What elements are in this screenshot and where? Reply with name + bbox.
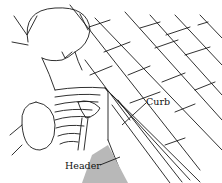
illustration: Curb Header [0,0,222,183]
curb-label: Curb [146,97,170,107]
roof-curb-drawing [0,0,222,183]
header-label: Header [65,161,101,171]
